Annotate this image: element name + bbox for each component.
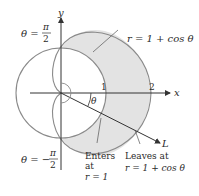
theta-bottom-denominator: 2 bbox=[50, 160, 56, 170]
y-axis-label: y bbox=[57, 7, 64, 18]
angle-theta-label: θ bbox=[91, 96, 97, 106]
theta-bottom-numerator: π bbox=[49, 148, 57, 158]
cardioid-label: r = 1 + cos θ bbox=[127, 33, 194, 44]
polar-diagram: y x 1 2 θ = π 2 θ = − π 2 r = 1 + cos θ … bbox=[0, 0, 199, 196]
theta-top-label: θ = bbox=[21, 28, 39, 39]
theta-top-numerator: π bbox=[42, 22, 50, 32]
theta-top-denominator: 2 bbox=[43, 34, 49, 44]
tick-2: 2 bbox=[149, 82, 155, 92]
x-axis-label: x bbox=[174, 87, 180, 98]
enters-label-line3: r = 1 bbox=[85, 172, 108, 182]
theta-bottom-label: θ = − bbox=[21, 154, 50, 165]
tick-1: 1 bbox=[101, 82, 107, 92]
enters-label-line2: at bbox=[85, 161, 94, 171]
enters-label-line1: Enters bbox=[85, 151, 116, 161]
line-L-label: L bbox=[161, 138, 169, 149]
leaves-label-line1: Leaves at bbox=[125, 151, 169, 161]
leaves-label-line2: r = 1 + cos θ bbox=[125, 163, 185, 173]
